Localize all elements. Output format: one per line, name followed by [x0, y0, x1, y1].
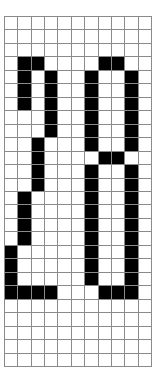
grid-cell-filled[interactable] — [45, 84, 57, 96]
grid-cell-empty[interactable] — [18, 273, 30, 285]
grid-cell-empty[interactable] — [58, 138, 70, 150]
grid-cell-empty[interactable] — [85, 286, 97, 298]
grid-cell-empty[interactable] — [5, 327, 17, 339]
grid-cell-empty[interactable] — [112, 98, 124, 110]
grid-cell-empty[interactable] — [58, 354, 70, 366]
grid-cell-empty[interactable] — [139, 71, 151, 83]
grid-cell-empty[interactable] — [32, 354, 44, 366]
grid-cell-empty[interactable] — [99, 354, 111, 366]
grid-cell-empty[interactable] — [45, 340, 57, 352]
grid-cell-filled[interactable] — [125, 192, 137, 204]
grid-cell-empty[interactable] — [32, 30, 44, 42]
grid-cell-empty[interactable] — [99, 246, 111, 258]
grid-cell-empty[interactable] — [58, 327, 70, 339]
grid-cell-empty[interactable] — [125, 30, 137, 42]
grid-cell-empty[interactable] — [32, 98, 44, 110]
grid-cell-filled[interactable] — [18, 286, 30, 298]
grid-cell-empty[interactable] — [5, 138, 17, 150]
grid-cell-empty[interactable] — [5, 232, 17, 244]
grid-cell-empty[interactable] — [72, 300, 84, 312]
grid-cell-empty[interactable] — [58, 30, 70, 42]
grid-cell-empty[interactable] — [99, 71, 111, 83]
grid-cell-filled[interactable] — [85, 165, 97, 177]
grid-cell-empty[interactable] — [18, 313, 30, 325]
grid-cell-empty[interactable] — [5, 17, 17, 29]
grid-cell-filled[interactable] — [125, 98, 137, 110]
grid-cell-empty[interactable] — [139, 273, 151, 285]
grid-cell-empty[interactable] — [5, 111, 17, 123]
grid-cell-empty[interactable] — [32, 300, 44, 312]
grid-cell-filled[interactable] — [99, 57, 111, 69]
grid-cell-empty[interactable] — [139, 84, 151, 96]
grid-cell-empty[interactable] — [45, 259, 57, 271]
grid-cell-empty[interactable] — [58, 165, 70, 177]
grid-cell-empty[interactable] — [5, 84, 17, 96]
grid-cell-filled[interactable] — [18, 192, 30, 204]
grid-cell-empty[interactable] — [112, 138, 124, 150]
grid-cell-empty[interactable] — [5, 205, 17, 217]
grid-cell-empty[interactable] — [99, 111, 111, 123]
grid-cell-empty[interactable] — [18, 152, 30, 164]
grid-cell-empty[interactable] — [45, 300, 57, 312]
grid-cell-empty[interactable] — [32, 246, 44, 258]
grid-cell-empty[interactable] — [5, 340, 17, 352]
grid-cell-empty[interactable] — [45, 165, 57, 177]
grid-cell-empty[interactable] — [45, 192, 57, 204]
grid-cell-empty[interactable] — [125, 300, 137, 312]
grid-cell-empty[interactable] — [112, 30, 124, 42]
grid-cell-empty[interactable] — [32, 313, 44, 325]
grid-cell-empty[interactable] — [32, 192, 44, 204]
grid-cell-empty[interactable] — [58, 44, 70, 56]
grid-cell-empty[interactable] — [58, 232, 70, 244]
grid-cell-empty[interactable] — [125, 354, 137, 366]
grid-cell-empty[interactable] — [85, 30, 97, 42]
grid-cell-empty[interactable] — [112, 273, 124, 285]
grid-cell-filled[interactable] — [85, 232, 97, 244]
grid-cell-empty[interactable] — [45, 273, 57, 285]
grid-cell-empty[interactable] — [32, 327, 44, 339]
grid-cell-filled[interactable] — [85, 259, 97, 271]
grid-cell-filled[interactable] — [32, 286, 44, 298]
grid-cell-empty[interactable] — [99, 192, 111, 204]
grid-cell-empty[interactable] — [139, 44, 151, 56]
grid-cell-filled[interactable] — [18, 57, 30, 69]
grid-cell-filled[interactable] — [125, 138, 137, 150]
grid-cell-filled[interactable] — [125, 125, 137, 137]
grid-cell-empty[interactable] — [99, 273, 111, 285]
grid-cell-empty[interactable] — [5, 30, 17, 42]
grid-cell-filled[interactable] — [45, 71, 57, 83]
grid-cell-empty[interactable] — [72, 192, 84, 204]
grid-cell-empty[interactable] — [72, 44, 84, 56]
grid-cell-filled[interactable] — [125, 273, 137, 285]
grid-cell-empty[interactable] — [125, 340, 137, 352]
grid-cell-empty[interactable] — [85, 327, 97, 339]
grid-cell-empty[interactable] — [58, 111, 70, 123]
grid-cell-empty[interactable] — [139, 340, 151, 352]
grid-cell-empty[interactable] — [5, 179, 17, 191]
grid-cell-empty[interactable] — [45, 179, 57, 191]
grid-cell-filled[interactable] — [125, 286, 137, 298]
grid-cell-empty[interactable] — [139, 246, 151, 258]
grid-cell-empty[interactable] — [45, 219, 57, 231]
grid-cell-empty[interactable] — [58, 300, 70, 312]
grid-cell-empty[interactable] — [99, 259, 111, 271]
grid-cell-empty[interactable] — [72, 125, 84, 137]
grid-cell-empty[interactable] — [72, 313, 84, 325]
grid-cell-empty[interactable] — [112, 165, 124, 177]
grid-cell-empty[interactable] — [32, 219, 44, 231]
grid-cell-filled[interactable] — [125, 84, 137, 96]
grid-cell-empty[interactable] — [45, 138, 57, 150]
grid-cell-filled[interactable] — [5, 273, 17, 285]
grid-cell-empty[interactable] — [5, 313, 17, 325]
grid-cell-empty[interactable] — [45, 354, 57, 366]
grid-cell-empty[interactable] — [99, 30, 111, 42]
grid-cell-empty[interactable] — [5, 219, 17, 231]
grid-cell-empty[interactable] — [139, 57, 151, 69]
grid-cell-empty[interactable] — [18, 179, 30, 191]
grid-cell-empty[interactable] — [139, 232, 151, 244]
grid-cell-empty[interactable] — [58, 273, 70, 285]
grid-cell-filled[interactable] — [125, 165, 137, 177]
grid-cell-empty[interactable] — [32, 111, 44, 123]
grid-cell-empty[interactable] — [18, 138, 30, 150]
grid-cell-empty[interactable] — [18, 327, 30, 339]
